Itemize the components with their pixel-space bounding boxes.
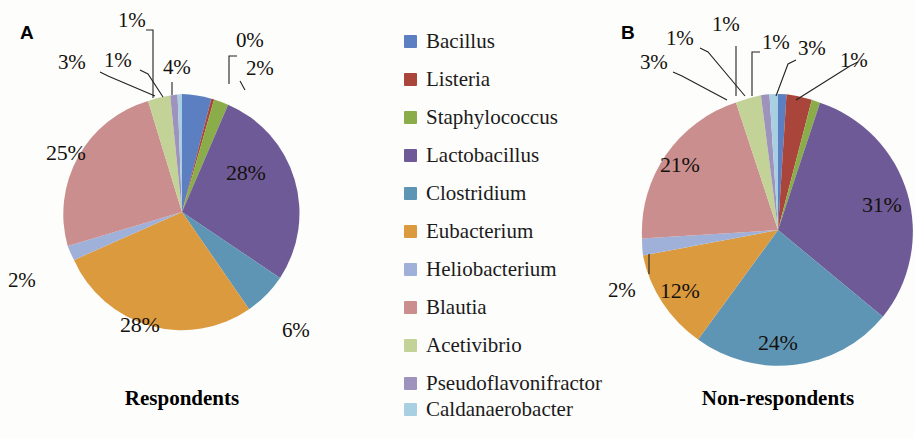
pct-label-a-blautia: 25%	[46, 140, 86, 166]
legend-item-acetivibrio[interactable]: Acetivibrio	[404, 326, 634, 364]
legend-label-staphylococcus: Staphylococcus	[426, 107, 558, 128]
leader-tick-b-heliobacterium	[646, 254, 654, 276]
pct-label-b-3: 3%	[640, 50, 668, 75]
legend-swatch-icon-caldanaerobacter	[404, 403, 417, 416]
legend-item-eubacterium[interactable]: Eubacterium	[404, 212, 634, 250]
pie-title-non-respondents: Non-respondents	[640, 386, 915, 411]
legend-swatch-icon-acetivibrio	[404, 339, 417, 352]
legend-item-pseudoflavonifractor[interactable]: Pseudoflavonifractor	[404, 364, 634, 402]
pct-label-b-blautia: 21%	[660, 152, 700, 178]
pct-label-a-eubacterium: 28%	[120, 312, 160, 338]
legend-label-acetivibrio: Acetivibrio	[426, 335, 522, 356]
legend-swatch-icon-clostridium	[404, 187, 417, 200]
pct-label-a-1: 1%	[118, 8, 146, 33]
pct-label-a-3: 3%	[58, 50, 86, 75]
legend-label-pseudoflavonifractor: Pseudoflavonifractor	[426, 373, 602, 394]
legend-label-clostridium: Clostridium	[426, 183, 526, 204]
pct-label-a-1b: 1%	[104, 48, 132, 73]
pct-label-a-2: 2%	[246, 56, 274, 81]
legend-swatch-icon-staphylococcus	[404, 111, 417, 124]
legend-label-blautia: Blautia	[426, 297, 487, 318]
legend-label-lactobacillus: Lactobacillus	[426, 145, 539, 166]
pct-label-a-lactobacillus: 28%	[226, 160, 266, 186]
pct-label-b-1d: 1%	[840, 48, 868, 73]
legend-item-caldanaerobacter[interactable]: Caldanaerobacter	[404, 402, 634, 416]
legend-label-bacillus: Bacillus	[426, 31, 495, 52]
legend-label-heliobacterium: Heliobacterium	[426, 259, 557, 280]
legend-swatch-icon-bacillus	[404, 35, 417, 48]
legend-item-heliobacterium[interactable]: Heliobacterium	[404, 250, 634, 288]
pct-label-a-heliobacterium: 2%	[8, 268, 36, 293]
legend-swatch-icon-lactobacillus	[404, 149, 417, 162]
pct-label-b-1a: 1%	[666, 26, 694, 51]
pct-label-a-clostridium: 6%	[282, 318, 310, 343]
pct-label-b-1b: 1%	[712, 12, 740, 37]
leader-lines-a	[0, 0, 400, 200]
legend-label-eubacterium: Eubacterium	[426, 221, 533, 242]
pct-label-b-1c: 1%	[762, 30, 790, 55]
legend-swatch-icon-pseudoflavonifractor	[404, 377, 417, 390]
legend-swatch-icon-heliobacterium	[404, 263, 417, 276]
figure-canvas: A 1% 3% 1% 4% 0% 2% 28	[0, 0, 915, 439]
pct-label-b-clostridium: 24%	[758, 330, 798, 356]
pct-label-b-eubacterium: 12%	[660, 278, 700, 304]
pct-label-a-0: 0%	[236, 28, 264, 53]
legend-swatch-icon-eubacterium	[404, 225, 417, 238]
legend-swatch-icon-blautia	[404, 301, 417, 314]
leader-lines-b	[600, 0, 915, 200]
legend-swatch-icon-listeria	[404, 73, 417, 86]
pct-label-b-heliobacterium: 2%	[608, 278, 636, 303]
legend-label-caldanaerobacter: Caldanaerobacter	[426, 402, 573, 416]
pct-label-b-lactobacillus: 31%	[862, 192, 902, 218]
pct-label-b-3b: 3%	[798, 36, 826, 61]
pct-label-a-4: 4%	[163, 55, 191, 80]
legend-label-listeria: Listeria	[426, 69, 490, 90]
legend-item-blautia[interactable]: Blautia	[404, 288, 634, 326]
pie-title-respondents: Respondents	[62, 386, 302, 411]
